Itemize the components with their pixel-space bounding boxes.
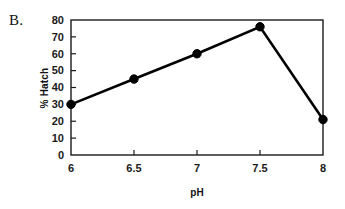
y-tick-label: 50 [52,64,64,76]
y-axis-ticks [71,37,76,138]
x-axis-ticks [134,150,260,155]
x-axis-title: pH [190,187,204,198]
plot-area-border [71,20,323,155]
y-tick-label: 30 [52,98,64,110]
series-line-path [71,27,323,120]
x-tick-label: 7.5 [252,162,267,174]
x-tick-label: 6.5 [126,162,141,174]
x-tick-label: 6 [68,162,74,174]
line-chart: 01020304050607080 66.577.58 % Hatch pH [0,0,345,209]
data-point-marker [193,50,201,58]
y-tick-label: 40 [52,81,64,93]
data-point-marker [256,23,264,31]
y-axis-tick-labels: 01020304050607080 [52,14,64,161]
y-tick-label: 10 [52,132,64,144]
y-tick-label: 70 [52,31,64,43]
y-tick-label: 60 [52,48,64,60]
data-point-markers [67,23,327,124]
x-tick-label: 7 [194,162,200,174]
plot-frame [71,20,323,155]
x-axis-tick-labels: 66.577.58 [68,162,326,174]
figure-panel: B. 01020304050607080 66.577.58 % Hatch p… [0,0,345,209]
data-point-marker [67,100,75,108]
y-tick-label: 0 [58,149,64,161]
y-tick-label: 80 [52,14,64,26]
y-tick-label: 20 [52,115,64,127]
y-axis-title: % Hatch [39,68,50,109]
data-series-hatch [71,27,323,120]
data-point-marker [130,75,138,83]
x-tick-label: 8 [320,162,326,174]
data-point-marker [319,115,327,123]
